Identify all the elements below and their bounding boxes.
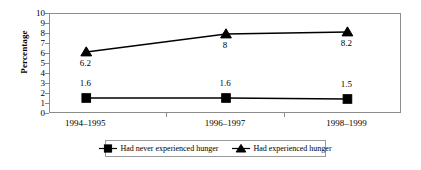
y-tick-label: 2 — [5, 89, 45, 98]
data-point-label: 8 — [195, 40, 255, 50]
x-tick-label: 1996–1997 — [165, 118, 285, 128]
data-point-label: 1.6 — [55, 78, 115, 88]
y-tick-label: 7 — [5, 39, 45, 48]
data-point-marker-square — [222, 94, 231, 103]
data-point-marker-triangle — [342, 27, 353, 36]
y-tick-label: 5 — [5, 59, 45, 68]
chart-figure: Percentage 109876543210 1994–19951996–19… — [0, 0, 421, 170]
legend-label: Had never experienced hunger — [120, 144, 218, 153]
legend-triangle-marker-icon — [232, 144, 250, 153]
legend-entry-2[interactable]: Had experienced hunger — [232, 144, 331, 153]
data-point-label: 1.5 — [316, 79, 376, 89]
x-tick-mark — [166, 113, 167, 117]
y-tick-label: 4 — [5, 69, 45, 78]
data-point-label: 1.6 — [195, 78, 255, 88]
data-point-marker-square — [82, 94, 91, 103]
y-tick-mark — [45, 113, 49, 114]
y-axis-ticks: 109876543210 — [0, 13, 45, 113]
y-tick-label: 8 — [5, 29, 45, 38]
x-tick-label: 1994–1995 — [25, 118, 145, 128]
y-tick-label: 0 — [5, 109, 45, 118]
legend-label: Had experienced hunger — [253, 144, 331, 153]
legend-square-marker-icon — [99, 144, 117, 153]
legend-entry-1[interactable]: Had never experienced hunger — [99, 144, 218, 153]
y-tick-label: 6 — [5, 49, 45, 58]
data-point-marker-square — [343, 95, 352, 104]
x-tick-label: 1998–1999 — [286, 118, 406, 128]
data-point-label: 6.2 — [55, 58, 115, 68]
series-line-1 — [86, 98, 347, 99]
y-tick-label: 3 — [5, 79, 45, 88]
x-tick-mark — [284, 113, 285, 117]
data-point-label: 8.2 — [316, 38, 376, 48]
chart-legend: Had never experienced hungerHad experien… — [105, 140, 326, 157]
y-tick-label: 10 — [5, 9, 45, 18]
y-tick-label: 1 — [5, 99, 45, 108]
y-tick-label: 9 — [5, 19, 45, 28]
